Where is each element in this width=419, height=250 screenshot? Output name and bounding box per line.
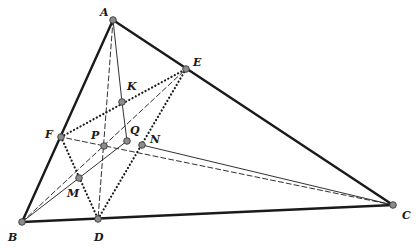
point-k-label: K	[126, 80, 137, 93]
point-b-marker	[19, 219, 26, 226]
point-p-marker	[101, 143, 108, 150]
point-n-label: N	[149, 133, 161, 146]
point-m-marker	[76, 175, 83, 182]
point-p-label: P	[90, 129, 100, 142]
segment-ak-thin	[113, 20, 122, 102]
point-m-label: M	[66, 187, 80, 200]
point-d-marker	[95, 216, 102, 223]
point-a-label: A	[99, 6, 109, 19]
point-k-marker	[119, 99, 126, 106]
segment-bc-thick	[22, 205, 393, 222]
point-a-marker	[110, 17, 117, 24]
point-b-label: B	[7, 231, 17, 244]
faint-background-text	[200, 2, 415, 42]
segment-bq-thin	[22, 141, 127, 222]
point-c-label: C	[402, 209, 411, 222]
point-d-label: D	[93, 231, 104, 244]
point-c-marker	[390, 202, 397, 209]
point-n-marker	[139, 142, 146, 149]
point-f-label: F	[44, 128, 54, 141]
segment-nc-thin	[142, 145, 393, 205]
point-f-marker	[58, 134, 65, 141]
point-q-marker	[124, 138, 131, 145]
point-q-label: Q	[130, 124, 140, 137]
point-e-marker	[183, 66, 190, 73]
point-e-label: E	[192, 56, 202, 69]
segment-kq-thin	[122, 102, 127, 141]
geometry-diagram: ABCDEFKPQNM	[0, 0, 419, 250]
segment-ca-thick	[113, 20, 393, 205]
